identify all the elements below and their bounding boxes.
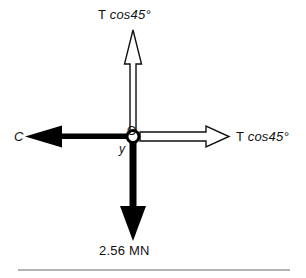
- force-left-arrow-head: [25, 126, 62, 148]
- force-up-arrow-shape: [125, 30, 142, 136]
- force-up-label-expr: cos45°: [110, 7, 151, 22]
- force-right-arrow-shape: [140, 126, 229, 147]
- force-right-arrow: [140, 126, 229, 147]
- force-up-label-prefix: T: [98, 7, 110, 22]
- force-up-label: T cos45°: [98, 8, 151, 21]
- force-down-arrow: [120, 142, 146, 241]
- force-right-label: T cos45°: [236, 130, 289, 143]
- force-left-label: C: [14, 130, 23, 143]
- force-down-arrow-head: [120, 206, 146, 241]
- free-body-diagram: T cos45° T cos45° C 2.56 MN O y: [0, 0, 306, 278]
- origin-point-label: O: [127, 125, 136, 137]
- force-right-label-expr: cos45°: [248, 129, 289, 144]
- force-down-arrow-stem: [130, 142, 137, 210]
- y-axis-label: y: [119, 143, 125, 155]
- force-left-arrow-stem: [56, 134, 130, 140]
- force-left-arrow: [25, 126, 130, 148]
- force-right-label-prefix: T: [236, 129, 248, 144]
- force-up-arrow: [125, 30, 142, 136]
- force-down-label: 2.56 MN: [99, 244, 150, 257]
